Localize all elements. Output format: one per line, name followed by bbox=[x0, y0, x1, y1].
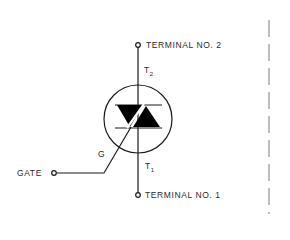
t2-subscript: 2 bbox=[150, 71, 154, 77]
terminal-2-label: TERMINAL NO. 2 bbox=[146, 41, 222, 50]
terminal-1-label: TERMINAL NO. 1 bbox=[145, 191, 221, 200]
t1-letter: T bbox=[145, 161, 151, 171]
t2-label: T2 bbox=[144, 66, 154, 75]
t2-letter: T bbox=[144, 65, 150, 75]
gate-node bbox=[52, 171, 57, 176]
t1-subscript: 1 bbox=[151, 167, 155, 173]
t1-label: T1 bbox=[145, 162, 155, 171]
terminal-1-node bbox=[136, 193, 141, 198]
gate-lead-wire bbox=[57, 127, 132, 173]
gate-lead-label: G bbox=[98, 150, 105, 159]
terminal-2-node bbox=[136, 43, 141, 48]
gate-label: GATE bbox=[17, 169, 42, 178]
